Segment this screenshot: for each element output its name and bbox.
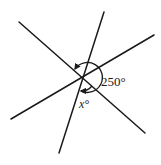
reflex-angle-label: 250° xyxy=(101,74,126,89)
line-c xyxy=(59,12,104,153)
intersecting-lines-diagram: 250° x° xyxy=(0,0,161,165)
unknown-angle-label: x° xyxy=(78,97,89,111)
unknown-angle-arc xyxy=(81,86,92,91)
